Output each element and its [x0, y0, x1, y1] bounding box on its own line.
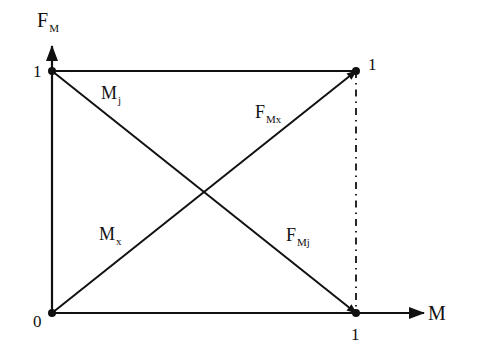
- line-label-mj-main: M: [101, 83, 117, 103]
- corner-label-top-right: 1: [368, 56, 377, 73]
- line-label-fmx-sub: Mx: [266, 113, 281, 125]
- y-axis-label-sub: M: [49, 22, 59, 34]
- point-1-0: [352, 309, 360, 317]
- point-0-0: [48, 309, 56, 317]
- line-label-mx: Mx: [99, 225, 122, 243]
- origin-tick-label: 0: [33, 313, 42, 330]
- y-tick-label-1: 1: [33, 63, 42, 80]
- x-axis-label: M: [428, 303, 446, 323]
- x-tick-label-1: 1: [351, 326, 360, 343]
- line-label-fmx: FMx: [255, 103, 281, 121]
- line-label-mx-main: M: [99, 224, 115, 244]
- y-axis-label-main: F: [37, 9, 48, 31]
- line-label-mx-sub: x: [116, 235, 122, 247]
- line-label-fmj: FMj: [286, 226, 310, 244]
- y-axis-label: FM: [37, 10, 59, 30]
- line-label-fmj-sub: Mj: [297, 236, 310, 248]
- line-label-mj-sub: j: [118, 94, 121, 106]
- line-label-fmx-main: F: [255, 102, 265, 122]
- line-label-mj: Mj: [101, 84, 121, 102]
- point-1-1: [352, 67, 360, 75]
- line-label-fmj-main: F: [286, 225, 296, 245]
- point-0-1: [48, 67, 56, 75]
- diagram-canvas: [0, 0, 478, 356]
